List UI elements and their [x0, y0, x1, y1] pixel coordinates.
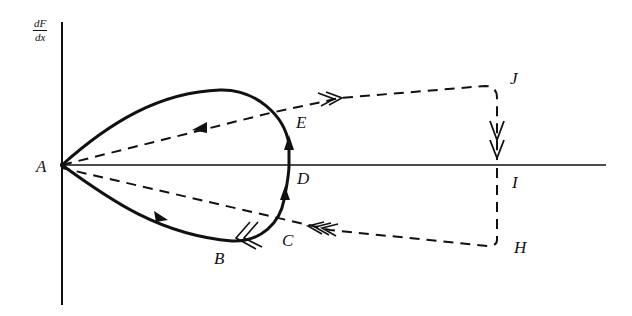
arrow-icon-c-to-d [280, 186, 290, 200]
phase-diagram [0, 0, 632, 316]
y-axis-label-numerator: dF [33, 18, 47, 31]
solid-curve-upper [62, 90, 289, 165]
label-point-e: E [296, 114, 306, 131]
label-point-c: C [282, 232, 293, 249]
label-point-d: D [297, 170, 309, 187]
arrow-icon-d-to-e [284, 135, 294, 150]
y-axis-label: dF dx [33, 18, 47, 43]
triple-chevron-icon-to-c [308, 222, 338, 236]
label-point-b: B [214, 250, 224, 267]
arrow-icon-a-to-b [154, 211, 168, 222]
point-a-dot [60, 162, 66, 168]
label-point-h: H [514, 239, 526, 256]
label-point-j: J [510, 70, 518, 87]
y-axis-label-denominator: dx [33, 31, 47, 43]
label-point-i: I [512, 174, 518, 191]
dashed-path-upper [62, 86, 497, 165]
label-point-a: A [36, 158, 46, 175]
double-chevron-icon-to-j [318, 92, 342, 106]
